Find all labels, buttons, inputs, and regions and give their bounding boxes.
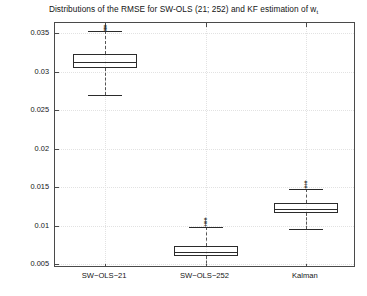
plot-inner: ++++++++++++++++++ — [55, 23, 354, 266]
y-tick-mark — [55, 110, 59, 111]
boxplot-whisker-lower — [206, 256, 207, 266]
boxplot-whisker-upper — [306, 189, 307, 203]
x-tick-label: Kalman — [292, 271, 318, 280]
x-tick-label: SW−OLS−21 — [82, 271, 127, 280]
boxplot-whisker-lower — [105, 68, 106, 95]
boxplot-median — [174, 252, 238, 253]
y-gridline — [55, 149, 354, 150]
boxplot-whisker-lower — [306, 213, 307, 230]
y-gridline — [55, 264, 354, 265]
y-gridline — [55, 33, 354, 34]
plot-area: ++++++++++++++++++ — [54, 22, 355, 267]
y-tick-label: 0.01 — [0, 221, 49, 230]
x-tick-mark-top — [306, 23, 307, 27]
chart-title-text: Distributions of the RMSE for SW-OLS (21… — [49, 4, 317, 14]
boxplot-box — [274, 203, 338, 213]
x-tick-mark-bottom — [306, 264, 307, 266]
y-tick-label: 0.005 — [0, 259, 49, 268]
y-tick-mark — [55, 72, 59, 73]
boxplot-cap-lower — [289, 229, 323, 230]
y-tick-label: 0.015 — [0, 182, 49, 191]
boxplot-outlier: + — [304, 178, 308, 184]
boxplot-median — [274, 209, 338, 210]
boxplot-median — [73, 62, 137, 63]
x-tick-mark-top — [206, 23, 207, 27]
y-tick-mark — [55, 264, 59, 265]
y-tick-label: 0.035 — [0, 28, 49, 37]
x-tick-mark-bottom — [105, 264, 106, 266]
boxplot-whisker-upper — [105, 31, 106, 53]
boxplot-outlier: + — [204, 215, 208, 221]
y-tick-mark — [55, 33, 59, 34]
y-tick-mark — [55, 149, 59, 150]
boxplot-cap-lower — [88, 95, 122, 96]
y-tick-label: 0.03 — [0, 67, 49, 76]
y-tick-mark — [55, 187, 59, 188]
boxplot-outlier: + — [103, 23, 107, 28]
figure-canvas: Distributions of the RMSE for SW-OLS (21… — [0, 0, 367, 296]
y-tick-mark — [55, 226, 59, 227]
y-tick-label: 0.025 — [0, 105, 49, 114]
y-gridline — [55, 72, 354, 73]
chart-title-subscript: t — [316, 9, 318, 15]
y-gridline — [55, 110, 354, 111]
x-tick-label: SW−OLS−252 — [180, 271, 229, 280]
boxplot-whisker-upper — [206, 227, 207, 246]
y-tick-label: 0.02 — [0, 144, 49, 153]
chart-title: Distributions of the RMSE for SW-OLS (21… — [0, 4, 367, 15]
